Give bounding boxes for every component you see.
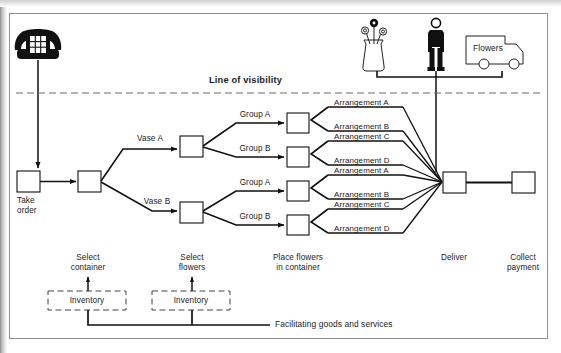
arrangement-label-2: Arrangement B (334, 122, 389, 132)
chevron-2 (311, 141, 328, 165)
arrangement-label-6: Arrangement B (334, 190, 389, 200)
box-select-container (78, 171, 101, 192)
chevron-4 (311, 209, 328, 233)
vase-b-label: Vase B (144, 197, 170, 207)
step-label-select-flowers: Select flowers (179, 253, 206, 272)
arrangement-label-5: Arrangement A (334, 166, 389, 176)
step-label-select-container: Select container (71, 253, 106, 272)
box-place-flowers-2 (287, 147, 309, 167)
arrangement-label-3: Arrangement C (334, 132, 390, 142)
arrangement-label-7: Arrangement C (334, 200, 390, 210)
inventory-label-flowers: Inventory (174, 296, 209, 306)
box-place-flowers-1 (287, 113, 309, 133)
converge-7 (403, 182, 442, 209)
box-place-flowers-3 (287, 181, 309, 201)
person-icon (428, 18, 445, 71)
box-deliver (443, 172, 466, 193)
step-label-take-order: Take order (17, 196, 37, 215)
inventory-label-container: Inventory (70, 296, 105, 306)
group-a-bottom-label: Group A (240, 178, 271, 188)
box-take-order (17, 171, 40, 192)
line-of-visibility-label: Line of visibility (209, 76, 282, 86)
converge-8 (403, 182, 442, 233)
group-b-top-label: Group B (239, 144, 270, 154)
vase-with-flowers-icon (361, 19, 386, 71)
box-place-flowers-4 (287, 215, 309, 235)
arrangement-label-1: Arrangement A (334, 98, 389, 108)
facilitating-trunk (88, 310, 270, 325)
telephone-icon (15, 29, 61, 59)
step-label-collect-payment: Collect payment (507, 253, 539, 272)
customer-evidence-bracket (377, 71, 502, 77)
vase-a-label: Vase A (137, 134, 163, 144)
chevron-3 (311, 175, 328, 199)
box-select-flowers-top (180, 136, 203, 157)
flow-vaseB-to-groupA (203, 191, 284, 211)
step-label-deliver: Deliver (441, 253, 467, 263)
arrangement-label-4: Arrangement D (334, 156, 390, 166)
box-collect-payment (512, 172, 535, 193)
facilitating-goods-label: Facilitating goods and services (275, 320, 393, 330)
arrangement-label-8: Arrangement D (334, 224, 390, 234)
flow-container-to-vaseA (101, 149, 177, 181)
truck-flowers-label: Flowers (473, 44, 503, 54)
box-select-flowers-bottom (180, 202, 203, 223)
group-a-top-label: Group A (240, 110, 271, 120)
step-label-place-flowers: Place flowers in container (273, 253, 323, 272)
chevron-1 (311, 107, 328, 131)
flow-vaseA-to-groupA (203, 123, 284, 146)
group-b-bottom-label: Group B (239, 212, 270, 222)
